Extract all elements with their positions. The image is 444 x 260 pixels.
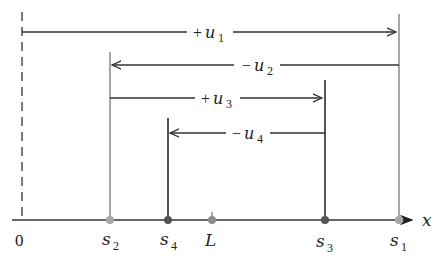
svg-text:s: s xyxy=(390,230,399,250)
L-label: L xyxy=(204,230,216,250)
x-axis-label: x xyxy=(422,210,432,230)
u2-sub: 2 xyxy=(267,64,273,78)
u1-sub: 1 xyxy=(218,31,224,45)
s4-point xyxy=(164,216,172,224)
svg-text:s: s xyxy=(316,231,325,251)
s4-label: s 4 xyxy=(160,229,177,253)
origin-label: 0 xyxy=(15,231,24,250)
u4-base: u xyxy=(244,124,254,143)
u3-base: u xyxy=(213,89,223,108)
svg-text:s: s xyxy=(160,229,169,249)
svg-text:1: 1 xyxy=(401,240,407,254)
u1-base: u xyxy=(205,23,215,42)
u4-sign: − xyxy=(232,125,241,142)
s1-point xyxy=(395,216,403,224)
u4-displacement-arrow: − u 4 xyxy=(170,124,325,146)
svg-text:4: 4 xyxy=(171,239,177,253)
u2-base: u xyxy=(254,56,264,75)
u4-sub: 4 xyxy=(257,132,263,146)
svg-text:s: s xyxy=(102,229,111,249)
u1-displacement-arrow: + u 1 xyxy=(22,23,396,45)
svg-text:2: 2 xyxy=(113,239,119,253)
u3-sign: + xyxy=(201,90,210,107)
u3-sub: 3 xyxy=(226,97,232,111)
u3-displacement-arrow: + u 3 xyxy=(110,89,322,111)
u2-sign: − xyxy=(242,57,251,74)
u2-displacement-arrow: − u 2 xyxy=(112,56,399,78)
u1-sign: + xyxy=(193,24,202,41)
s2-label: s 2 xyxy=(102,229,119,253)
s3-point xyxy=(321,216,329,224)
s3-label: s 3 xyxy=(316,231,333,255)
displacement-diagram: + u 1 − u 2 + u 3 − u 4 0 s 2 s 4 L xyxy=(0,0,444,260)
svg-text:3: 3 xyxy=(327,241,333,255)
L-point xyxy=(208,216,216,224)
s1-label: s 1 xyxy=(390,230,407,254)
s2-point xyxy=(106,216,114,224)
